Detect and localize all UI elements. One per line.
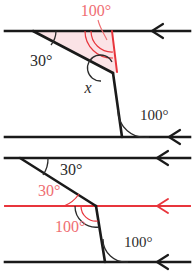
label-angle-100-lower-red: 100° [55, 218, 85, 235]
label-angle-x: x [83, 79, 91, 96]
upper-descending-segment [113, 73, 122, 137]
lower-descending-segment [96, 206, 105, 262]
label-angle-30-upper: 30° [30, 52, 52, 69]
label-angle-30-lower-top: 30° [60, 161, 82, 178]
angle-arc-30-lower-red [64, 194, 79, 206]
label-angle-30-lower-red: 30° [38, 182, 60, 199]
upper-diagram: 100° 30° x 100° [5, 2, 190, 144]
label-angle-100-lower-bottom: 100° [124, 234, 153, 250]
geometry-figure: 100° 30° x 100° [0, 0, 195, 277]
lower-diagram: 30° 30° 100° 100° [5, 151, 190, 269]
label-angle-100-upper-top: 100° [81, 2, 111, 19]
label-angle-100-upper-bottom: 100° [140, 107, 169, 123]
diagram-canvas: 100° 30° x 100° [0, 0, 195, 277]
